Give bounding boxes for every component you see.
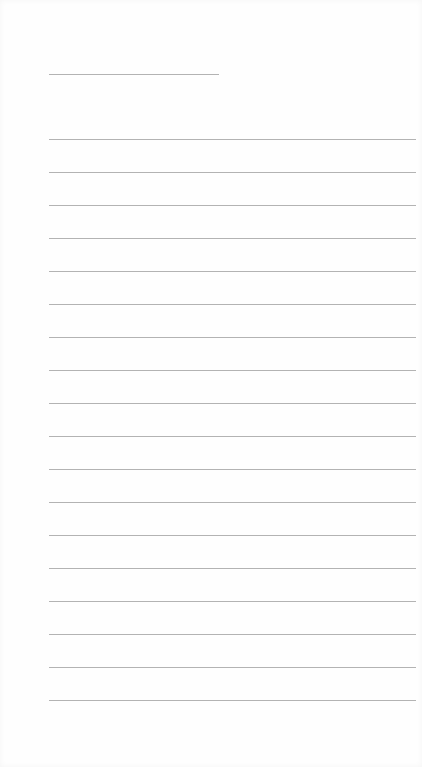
- ruled-line: [49, 634, 416, 635]
- ruled-line: [49, 601, 416, 602]
- ruled-line: [49, 568, 416, 569]
- ruled-line: [49, 238, 416, 239]
- ruled-line: [49, 205, 416, 206]
- header-line: [49, 74, 219, 75]
- ruled-line: [49, 436, 416, 437]
- ruled-line: [49, 139, 416, 140]
- ruled-line: [49, 337, 416, 338]
- ruled-line: [49, 667, 416, 668]
- ruled-line: [49, 469, 416, 470]
- ruled-line: [49, 370, 416, 371]
- ruled-line: [49, 271, 416, 272]
- ruled-line: [49, 172, 416, 173]
- ruled-line: [49, 700, 416, 701]
- ruled-line: [49, 403, 416, 404]
- ruled-line: [49, 304, 416, 305]
- ruled-line: [49, 535, 416, 536]
- ruled-line: [49, 502, 416, 503]
- lined-paper: [0, 0, 422, 767]
